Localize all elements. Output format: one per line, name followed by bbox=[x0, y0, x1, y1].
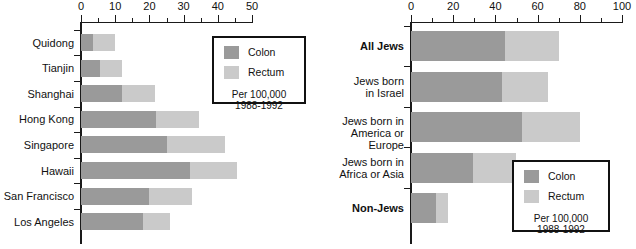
x-tick-label: 50 bbox=[232, 1, 272, 12]
x-tick-major bbox=[622, 15, 623, 22]
legend-note-years: 1988-1992 bbox=[214, 100, 304, 111]
legend-note-per-100000: Per 100,000 bbox=[514, 213, 608, 224]
y-tick bbox=[74, 30, 80, 31]
chart-panel-left: 01020304050QuidongTianjinShanghaiHong Ko… bbox=[0, 0, 315, 249]
category-label: Jews born in Israel bbox=[315, 75, 404, 99]
y-tick bbox=[74, 158, 80, 159]
bar-segment-colon bbox=[411, 153, 473, 183]
x-tick-minor bbox=[235, 18, 236, 22]
x-tick-major bbox=[115, 15, 116, 22]
legend-swatch-rectum bbox=[224, 66, 239, 79]
category-label: Hong Kong bbox=[0, 113, 74, 125]
x-tick-major bbox=[218, 15, 219, 22]
x-tick-minor bbox=[474, 18, 475, 22]
x-tick-label: 100 bbox=[602, 1, 636, 12]
x-tick-major bbox=[538, 15, 539, 22]
bar-segment-rectum bbox=[505, 31, 559, 61]
category-label: San Francisco bbox=[0, 190, 74, 202]
x-tick-major bbox=[495, 15, 496, 22]
x-tick-label: 60 bbox=[518, 1, 558, 12]
bar-segment-rectum bbox=[436, 193, 448, 223]
x-tick-minor bbox=[98, 18, 99, 22]
legend-swatch-colon bbox=[524, 170, 539, 183]
bar-segment-rectum bbox=[473, 153, 516, 183]
y-axis-line bbox=[80, 22, 82, 244]
y-tick bbox=[74, 183, 80, 184]
legend-label-colon: Colon bbox=[248, 47, 275, 58]
bar-segment-colon bbox=[81, 111, 156, 128]
bar-segment-colon bbox=[81, 188, 149, 205]
legend-entry-rectum: Rectum bbox=[224, 66, 284, 79]
legend-note-years: 1988-1992 bbox=[514, 224, 608, 235]
bar-segment-colon bbox=[81, 213, 143, 230]
bar-segment-rectum bbox=[190, 162, 236, 179]
category-label: Tianjin bbox=[0, 62, 74, 74]
y-tick bbox=[74, 107, 80, 108]
legend-box: ColonRectumPer 100,0001988-1992 bbox=[212, 36, 306, 104]
x-tick-minor bbox=[559, 18, 560, 22]
category-label: All Jews bbox=[315, 40, 404, 52]
bar-segment-colon bbox=[81, 162, 190, 179]
y-tick bbox=[404, 188, 410, 189]
x-tick-minor bbox=[601, 18, 602, 22]
x-tick-major bbox=[252, 15, 253, 22]
y-tick bbox=[74, 132, 80, 133]
legend-label-rectum: Rectum bbox=[548, 191, 584, 202]
legend-label-colon: Colon bbox=[548, 171, 575, 182]
bar-segment-rectum bbox=[502, 72, 548, 102]
x-tick-label: 20 bbox=[433, 1, 473, 12]
bar-segment-colon bbox=[411, 31, 505, 61]
x-tick-label: 80 bbox=[560, 1, 600, 12]
bar-segment-rectum bbox=[122, 85, 154, 102]
bar-segment-colon bbox=[81, 85, 122, 102]
category-label: Los Angeles bbox=[0, 216, 74, 228]
y-tick bbox=[404, 107, 410, 108]
bar-segment-colon bbox=[81, 60, 100, 77]
bar-segment-rectum bbox=[156, 111, 199, 128]
y-tick bbox=[74, 55, 80, 56]
bar-segment-colon bbox=[411, 193, 436, 223]
bar-segment-rectum bbox=[100, 60, 122, 77]
category-label: Jews born in America or Europe bbox=[315, 115, 404, 151]
legend-swatch-colon bbox=[224, 46, 239, 59]
x-tick-major bbox=[149, 15, 150, 22]
bar-segment-colon bbox=[411, 72, 502, 102]
x-axis-line bbox=[411, 22, 623, 23]
x-tick-label: 40 bbox=[475, 1, 515, 12]
legend-box: ColonRectumPer 100,0001988-1992 bbox=[512, 160, 610, 232]
bar-segment-rectum bbox=[143, 213, 170, 230]
x-tick-minor bbox=[432, 18, 433, 22]
x-tick-minor bbox=[167, 18, 168, 22]
y-tick bbox=[74, 209, 80, 210]
category-label: Hawaii bbox=[0, 165, 74, 177]
y-tick bbox=[74, 81, 80, 82]
legend-entry-colon: Colon bbox=[224, 46, 275, 59]
bar-segment-rectum bbox=[522, 112, 580, 142]
legend-note-per-100000: Per 100,000 bbox=[214, 89, 304, 100]
legend-swatch-rectum bbox=[524, 190, 539, 203]
x-axis-line bbox=[81, 22, 253, 23]
bar-segment-rectum bbox=[167, 136, 225, 153]
bar-segment-colon bbox=[81, 34, 93, 51]
category-label: Quidong bbox=[0, 37, 74, 49]
x-tick-major bbox=[580, 15, 581, 22]
bar-segment-rectum bbox=[93, 34, 115, 51]
legend-entry-colon: Colon bbox=[524, 170, 575, 183]
category-label: Non-Jews bbox=[315, 202, 404, 214]
legend-label-rectum: Rectum bbox=[248, 67, 284, 78]
y-tick bbox=[404, 66, 410, 67]
x-tick-label: 0 bbox=[391, 1, 431, 12]
x-tick-major bbox=[453, 15, 454, 22]
category-label: Singapore bbox=[0, 139, 74, 151]
bar-segment-colon bbox=[411, 112, 522, 142]
category-label: Shanghai bbox=[0, 88, 74, 100]
y-tick bbox=[404, 26, 410, 27]
x-tick-major bbox=[184, 15, 185, 22]
bar-segment-colon bbox=[81, 136, 167, 153]
legend-entry-rectum: Rectum bbox=[524, 190, 584, 203]
x-tick-minor bbox=[517, 18, 518, 22]
x-tick-minor bbox=[132, 18, 133, 22]
x-tick-minor bbox=[201, 18, 202, 22]
bar-segment-rectum bbox=[149, 188, 192, 205]
